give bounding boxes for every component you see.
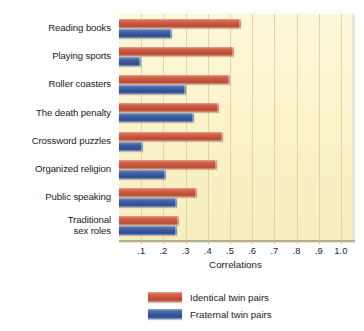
x-tick-label-.9: .9 [315,245,323,256]
bar-highlight [228,75,230,84]
twin-correlation-bar-chart: Reading booksPlaying sportsRoller coaste… [0,0,364,331]
bar-identical [119,19,241,28]
legend: Identical twin pairs Fraternal twin pair… [148,290,358,324]
bar-identical [119,188,197,197]
bar-highlight [221,132,223,141]
bar-fraternal [119,85,186,94]
x-tick-.8 [297,240,298,244]
bar-highlight [139,57,141,66]
bar-fraternal [119,198,177,207]
bar-highlight [141,142,143,151]
plot-area [119,14,352,240]
bar-fraternal [119,29,172,38]
legend-swatch-fraternal-icon [148,309,182,319]
legend-label-fraternal: Fraternal twin pairs [190,309,272,320]
category-label: Organized religion [1,164,111,175]
x-tick-label-.3: .3 [182,245,190,256]
bar-fraternal [119,142,143,151]
bar-highlight [164,170,166,179]
x-tick-1.0 [341,240,342,244]
bar-highlight [192,113,194,122]
bar-highlight [177,216,179,225]
bar-identical [119,75,230,84]
bar-fraternal [119,170,166,179]
x-tick-label-.6: .6 [248,245,256,256]
bar-identical [119,47,234,56]
category-label: Crossword puzzles [1,136,111,147]
category-label: Playing sports [1,51,111,62]
bar-identical [119,216,179,225]
bar-highlight [175,198,177,207]
x-axis-title: Correlations [119,259,352,270]
x-tick-label-.1: .1 [137,245,145,256]
category-label: Traditional sex roles [1,215,111,236]
category-label: Public speaking [1,192,111,203]
legend-item-fraternal: Fraternal twin pairs [148,307,358,321]
x-tick-label-.8: .8 [293,245,301,256]
bar-highlight [217,103,219,112]
x-tick-.5 [230,240,231,244]
bars-layer [119,14,352,240]
x-tick-label-.5: .5 [226,245,234,256]
bar-highlight [239,19,241,28]
legend-label-identical: Identical twin pairs [190,292,269,303]
x-tick-.9 [319,240,320,244]
legend-item-identical: Identical twin pairs [148,290,358,304]
bar-highlight [215,160,217,169]
x-tick-label-.2: .2 [159,245,167,256]
bar-identical [119,103,219,112]
bar-fraternal [119,57,141,66]
x-tick-.4 [208,240,209,244]
bar-fraternal [119,113,194,122]
category-label: Reading books [1,23,111,34]
bar-highlight [170,29,172,38]
bar-highlight [195,188,197,197]
category-label: The death penalty [1,108,111,119]
x-tick-label-.4: .4 [204,245,212,256]
category-axis: Reading booksPlaying sportsRoller coaste… [0,14,115,240]
x-tick-.6 [252,240,253,244]
bar-highlight [184,85,186,94]
bar-fraternal [119,226,177,235]
x-tick-.2 [163,240,164,244]
bar-highlight [232,47,234,56]
x-tick-.1 [141,240,142,244]
category-label: Roller coasters [1,79,111,90]
x-tick-label-.7: .7 [270,245,278,256]
legend-swatch-identical-icon [148,292,182,302]
bar-identical [119,132,223,141]
bar-identical [119,160,217,169]
x-tick-label-1.0: 1.0 [334,245,347,256]
bar-highlight [175,226,177,235]
x-tick-.3 [186,240,187,244]
x-tick-.7 [274,240,275,244]
